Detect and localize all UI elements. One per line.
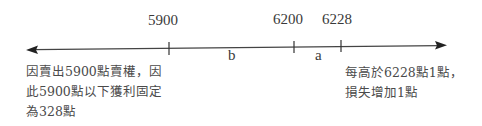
tick-label-6200: 6200 xyxy=(273,12,303,27)
segment-label-a: a xyxy=(315,48,322,63)
segment-label-b: b xyxy=(228,48,236,63)
right-note-line-2: 損失增加1點 xyxy=(345,83,463,103)
left-note-line-2: 此5900點以下獲利固定 xyxy=(26,82,162,102)
left-note-line-3: 為328點 xyxy=(26,102,162,122)
right-note-line-1: 每高於6228點1點， xyxy=(345,63,463,83)
left-note-line-1: 因賣出5900點賣權，因 xyxy=(26,62,162,82)
axis-line xyxy=(34,46,440,50)
tick-label-5900: 5900 xyxy=(148,13,178,28)
left-note: 因賣出5900點賣權，因 此5900點以下獲利固定 為328點 xyxy=(26,62,162,122)
right-note: 每高於6228點1點， 損失增加1點 xyxy=(345,63,463,103)
tick-label-6228: 6228 xyxy=(322,12,352,27)
